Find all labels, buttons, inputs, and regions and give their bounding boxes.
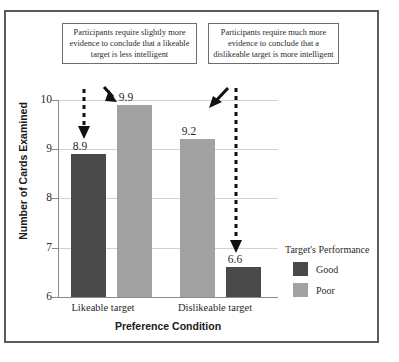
x-axis-title: Preference Condition [58,320,278,332]
x-category-likeable: Likeable target [48,302,158,313]
legend-swatch-good [293,262,308,276]
y-tick-label-7: 7 [6,242,52,254]
y-tick-6: 6 [0,297,52,298]
x-category-dislikeable: Dislikeable target [155,302,275,313]
callout-right: Participants require much more evidence … [208,23,339,64]
bar-value-likeable-good: 8.9 [55,141,105,153]
figure-container: 10 9 8 7 6 8.9 9.9 9.2 6.6 Likeable targ… [0,0,399,362]
x-axis-line [58,297,278,298]
bar-dislikeable-poor[interactable] [180,139,215,297]
bar-value-dislikeable-good: 6.6 [210,254,260,266]
bar-dislikeable-good[interactable] [226,267,261,297]
legend-label-good: Good [316,264,338,275]
legend: Target's Performance Good Poor [285,244,381,304]
bar-value-likeable-poor: 9.9 [101,92,151,104]
y-tick-7: 7 [0,248,52,249]
y-tick-label-10: 10 [6,94,52,106]
legend-title: Target's Performance [285,244,381,255]
bar-likeable-poor[interactable] [117,105,152,297]
y-axis-title: Number of Cards Examined [17,96,29,246]
y-tick-label-9: 9 [6,143,52,155]
legend-swatch-poor [293,283,308,297]
y-tick-label-8: 8 [6,192,52,204]
callout-left: Participants require slightly more evide… [62,23,197,64]
legend-label-poor: Poor [316,285,335,296]
legend-item-good[interactable]: Good [285,262,381,276]
legend-item-poor[interactable]: Poor [285,283,381,297]
y-tick-label-6: 6 [6,291,52,303]
y-tick-mark-6 [52,297,58,298]
bar-value-dislikeable-poor: 9.2 [164,126,214,138]
bar-likeable-good[interactable] [71,154,106,297]
